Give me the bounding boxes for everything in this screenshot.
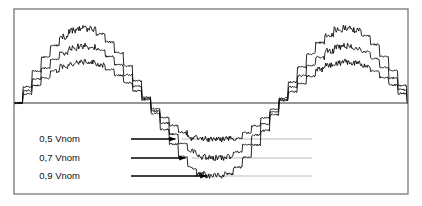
waveform-figure: 0,5 Vnom0,7 Vnom0,9 Vnom 0,5 Vnom0,7 Vno… <box>0 0 422 206</box>
figure-container: 0,5 Vnom0,7 Vnom0,9 Vnom 0,5 Vnom0,7 Vno… <box>0 0 422 206</box>
annotation-0-5-vnom-label: 0,5 Vnom <box>39 133 80 144</box>
annotation-0-7-vnom-label: 0,7 Vnom <box>39 152 80 163</box>
annotation-0-9-vnom-label: 0,9 Vnom <box>39 170 80 181</box>
